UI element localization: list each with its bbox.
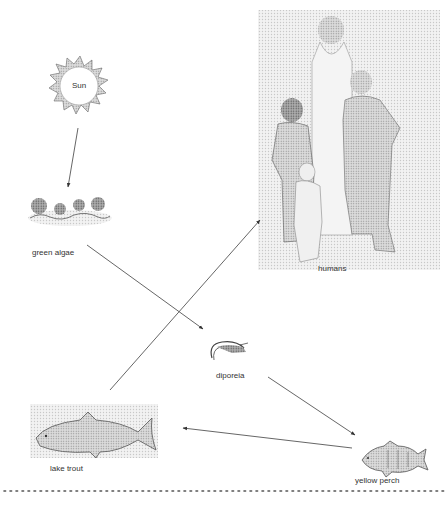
- humans-family-icon: [258, 10, 440, 270]
- arrow-sun-to-algae: [68, 128, 78, 187]
- label-green-algae: green algae: [32, 248, 74, 257]
- shrimp-icon: [211, 342, 248, 360]
- arrow-algae-to-diporeia: [87, 245, 203, 329]
- label-lake-trout: lake trout: [50, 464, 83, 473]
- arrow-diporeia-to-perch: [268, 377, 355, 435]
- arrow-perch-to-laketrout: [183, 428, 352, 448]
- algae-icon: [28, 197, 112, 226]
- food-chain-diagram: Sun green algae humans diporeia lake tro…: [0, 0, 448, 507]
- trout-fish-icon: [30, 404, 158, 458]
- label-humans: humans: [318, 264, 346, 273]
- arrow-laketrout-to-humans: [110, 220, 260, 390]
- label-yellow-perch: yellow perch: [355, 476, 399, 485]
- label-sun: Sun: [72, 81, 86, 90]
- label-diporeia: diporeia: [216, 371, 244, 380]
- perch-fish-icon: [362, 441, 428, 477]
